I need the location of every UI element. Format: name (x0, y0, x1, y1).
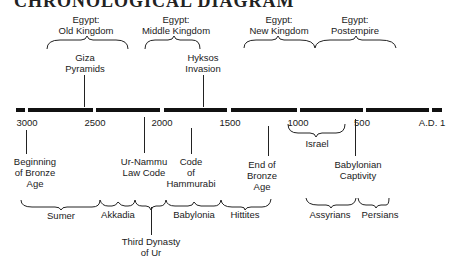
new-kingdom-brace (244, 36, 315, 48)
israel-brace (288, 124, 345, 137)
akkadia-brace (100, 200, 135, 206)
postempire-brace (315, 36, 396, 48)
third-dynasty-brace (135, 200, 166, 210)
sumer-brace (21, 200, 100, 210)
hittites-brace (221, 199, 271, 210)
middle-kingdom-brace (145, 36, 200, 49)
babylonia-brace (166, 200, 221, 206)
persians-brace (358, 198, 389, 208)
old-kingdom-brace (47, 36, 128, 49)
assyrians-brace (306, 198, 356, 208)
braces-layer (0, 0, 454, 265)
